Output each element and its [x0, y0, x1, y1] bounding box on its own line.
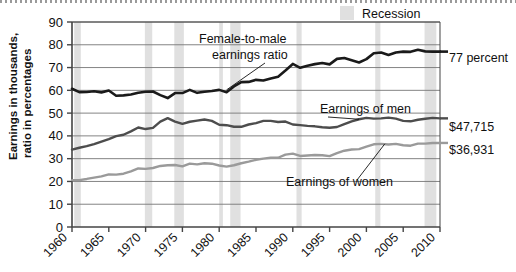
x-tick-label: 1980 — [188, 230, 218, 260]
x-tick-labels: 1960196519701975198019851990199520002005… — [41, 230, 439, 260]
end-label-women: $36,931 — [449, 143, 494, 157]
y-axis-title-line1: Earnings in thousands, — [7, 33, 19, 160]
x-tick-label: 2010 — [409, 230, 439, 260]
y-tick-label: 60 — [49, 83, 63, 98]
y-tick-label: 10 — [49, 197, 63, 212]
y-tick-label: 20 — [49, 174, 63, 189]
earnings-line-chart: 0102030405060708090 19601965197019751980… — [0, 0, 516, 272]
recession-band — [74, 22, 81, 227]
recession-legend-swatch — [340, 6, 354, 20]
annotation-men: Earnings of men — [320, 102, 411, 116]
x-tick-label: 2005 — [372, 230, 402, 260]
end-label-ratio: 77 percent — [449, 51, 509, 65]
y-tick-label: 50 — [49, 106, 63, 121]
recession-band — [145, 22, 152, 227]
annotation-ratio-line2: earnings ratio — [212, 48, 288, 62]
y-tick-label: 40 — [49, 128, 63, 143]
end-label-men: $47,715 — [449, 120, 494, 134]
y-axis-title-line2: ratio in percentages — [21, 49, 33, 158]
y-tick-labels: 0102030405060708090 — [49, 15, 63, 235]
x-tick-label: 1965 — [77, 230, 107, 260]
leader-line — [328, 117, 359, 119]
x-tick-label: 1970 — [114, 230, 144, 260]
annotation-ratio-line1: Female-to-male — [199, 32, 287, 46]
y-tick-label: 70 — [49, 60, 63, 75]
annotation-women: Earnings of women — [286, 175, 393, 189]
x-tick-label: 2000 — [335, 230, 365, 260]
x-tick-label: 1960 — [41, 230, 71, 260]
x-tick-label: 1995 — [298, 230, 328, 260]
x-tick-label: 1975 — [151, 230, 181, 260]
recession-legend-label: Recession — [362, 7, 420, 21]
y-tick-label: 80 — [49, 37, 63, 52]
chart-container: 0102030405060708090 19601965197019751980… — [0, 0, 516, 272]
y-tick-label: 90 — [49, 15, 63, 30]
x-tick-label: 1990 — [261, 230, 291, 260]
y-tick-label: 30 — [49, 151, 63, 166]
x-tick-label: 1985 — [225, 230, 255, 260]
